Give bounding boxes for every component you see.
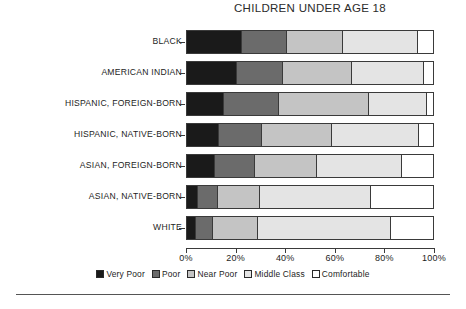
bar-segment (187, 124, 219, 146)
bar-segment (196, 217, 213, 239)
legend-label: Middle Class (254, 269, 304, 279)
bar-segment (419, 124, 433, 146)
plot-area (186, 30, 434, 248)
bar-segment (187, 62, 237, 84)
bar-segment (332, 124, 419, 146)
category-tick (179, 104, 185, 105)
category-label: ASIAN, NATIVE-BORN (4, 191, 182, 201)
bar-segment (224, 93, 279, 115)
bar-row (186, 30, 434, 54)
bar-segment (187, 155, 215, 177)
category-axis-labels: BLACKAMERICAN INDIANHISPANIC, FOREIGN-BO… (0, 30, 182, 248)
bar-segment (242, 31, 286, 53)
bar-row (186, 61, 434, 85)
legend-item: Poor (152, 269, 181, 279)
bar-segment (402, 155, 433, 177)
category-label: BLACK (4, 36, 182, 46)
category-tick (179, 135, 185, 136)
legend-label: Poor (162, 269, 181, 279)
category-label: AMERICAN INDIAN (4, 67, 182, 77)
bar-segment (427, 93, 433, 115)
bar-segment (255, 155, 318, 177)
bar-segment (187, 31, 242, 53)
bar-segment (219, 124, 262, 146)
bar-row (186, 154, 434, 178)
x-axis-tick-label: 60% (313, 253, 357, 263)
legend-item: Very Poor (96, 269, 145, 279)
category-tick (179, 197, 185, 198)
bar-segment (215, 155, 254, 177)
legend-swatch-icon (244, 270, 252, 278)
bar-segment (352, 62, 425, 84)
bar-row (186, 216, 434, 240)
category-label: ASIAN, FOREIGN-BORN (4, 160, 182, 170)
bar-segment (424, 62, 433, 84)
bar-row (186, 123, 434, 147)
stacked-bar-chart: CHILDREN UNDER AGE 18 BLACKAMERICAN INDI… (0, 0, 466, 309)
x-axis-tick-label: 80% (362, 253, 406, 263)
legend-swatch-icon (152, 270, 160, 278)
bar-segment (391, 217, 433, 239)
bar-segment (198, 186, 218, 208)
legend-label: Comfortable (322, 269, 370, 279)
chart-legend: Very PoorPoorNear PoorMiddle ClassComfor… (0, 269, 466, 279)
legend-item: Middle Class (244, 269, 304, 279)
legend-item: Near Poor (187, 269, 237, 279)
bar-segment (418, 31, 433, 53)
chart-title: CHILDREN UNDER AGE 18 (186, 2, 434, 14)
bar-row (186, 185, 434, 209)
bar-segment (187, 186, 198, 208)
bar-segment (218, 186, 260, 208)
bar-segment (260, 186, 372, 208)
legend-swatch-icon (187, 270, 195, 278)
category-label: HISPANIC, FOREIGN-BORN (4, 98, 182, 108)
legend-swatch-icon (96, 270, 104, 278)
legend-label: Very Poor (106, 269, 145, 279)
x-axis-tick-label: 20% (214, 253, 258, 263)
bar-row (186, 92, 434, 116)
x-axis-tick-label: 100% (412, 253, 456, 263)
bar-segment (317, 155, 402, 177)
x-axis-tick-label: 0% (164, 253, 208, 263)
bar-segment (371, 186, 433, 208)
x-axis-line (186, 248, 435, 249)
bar-segment (262, 124, 332, 146)
x-axis-tick-label: 40% (263, 253, 307, 263)
bar-segment (258, 217, 391, 239)
bar-segment (213, 217, 259, 239)
legend-item: Comfortable (312, 269, 370, 279)
bar-segment (237, 62, 283, 84)
bar-segment (283, 62, 352, 84)
bottom-divider (16, 294, 450, 295)
legend-label: Near Poor (197, 269, 237, 279)
bar-segment (187, 93, 224, 115)
bar-segment (343, 31, 418, 53)
bar-segment (287, 31, 344, 53)
category-label: HISPANIC, NATIVE-BORN (4, 129, 182, 139)
category-tick (179, 228, 185, 229)
category-label: WHITE (4, 222, 182, 232)
bar-segment (279, 93, 369, 115)
category-tick (179, 166, 185, 167)
category-tick (179, 42, 185, 43)
category-tick (179, 73, 185, 74)
bar-segment (187, 217, 196, 239)
bar-segment (369, 93, 427, 115)
legend-swatch-icon (312, 270, 320, 278)
